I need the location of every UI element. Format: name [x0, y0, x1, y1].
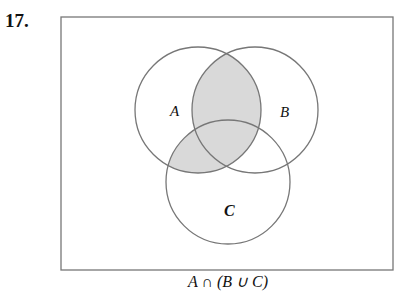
- set-c-label: C: [224, 202, 235, 219]
- shaded-region: [166, 47, 318, 244]
- set-a-label: A: [169, 103, 180, 119]
- venn-diagram: A B C: [0, 0, 396, 291]
- diagram-caption: A ∩ (B ∪ C): [0, 272, 396, 291]
- set-b-label: B: [280, 104, 289, 120]
